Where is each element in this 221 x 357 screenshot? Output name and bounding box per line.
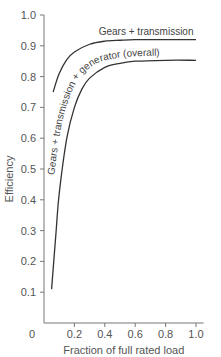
y-tick-label: 0.3 [21,225,36,237]
y-tick-label: 0.4 [21,194,36,206]
overall-curve [52,60,196,289]
y-tick-label: 0.9 [21,40,36,52]
x-tick-label: 1.0 [188,328,203,340]
x-tick-label: 0.8 [158,328,173,340]
x-tick-label: 0.6 [128,328,143,340]
x-tick-label: 0.2 [67,328,82,340]
y-tick-label: 0.7 [21,101,36,113]
y-tick-label: 0.2 [21,255,36,267]
y-tick-label: 0.5 [21,163,36,175]
labels: Gears + transmissionGears + transmission… [45,26,193,189]
y-tick-label: 0.1 [21,286,36,298]
x-tick-label: 0 [29,328,35,340]
y-tick-label: 0.6 [21,132,36,144]
efficiency-chart: 0.10.20.30.40.50.60.70.80.91.000.20.40.6… [0,0,221,357]
y-axis-title: Efficiency [3,155,15,202]
gears-transmission-label: Gears + transmission [99,26,194,37]
y-tick-label: 1.0 [21,9,36,21]
y-tick-label: 0.8 [21,71,36,83]
x-axis-title: Fraction of full rated load [63,344,184,356]
x-tick-label: 0.4 [97,328,112,340]
